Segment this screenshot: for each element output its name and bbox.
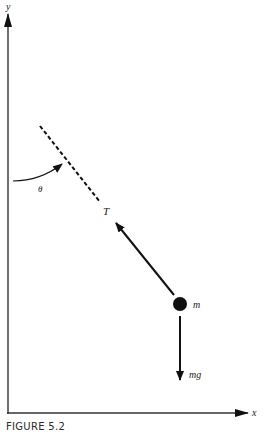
weight-label: mg bbox=[189, 369, 201, 380]
tension-label: T bbox=[103, 205, 110, 217]
figure-caption: FIGURE 5.2 bbox=[6, 421, 65, 432]
point-mass bbox=[173, 297, 187, 311]
y-axis-label: y bbox=[5, 1, 11, 12]
x-axis-label: x bbox=[251, 407, 257, 418]
theta-arc-arrow bbox=[13, 164, 62, 181]
mass-label: m bbox=[193, 299, 200, 310]
pendulum-force-diagram: y x θ T m mg bbox=[0, 0, 264, 437]
theta-label: θ bbox=[38, 184, 43, 194]
tension-arrow bbox=[116, 223, 174, 295]
dashed-reference-line bbox=[40, 126, 100, 202]
